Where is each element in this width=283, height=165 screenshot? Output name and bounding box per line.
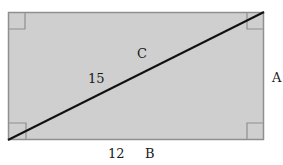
label-diagonal-length: 15: [88, 72, 105, 85]
label-bottom-letter: B: [145, 147, 155, 160]
label-diagonal-letter: C: [137, 47, 147, 60]
label-side-right: A: [272, 71, 281, 84]
rectangle-diagram: [0, 0, 283, 165]
label-bottom-length: 12: [108, 147, 125, 160]
